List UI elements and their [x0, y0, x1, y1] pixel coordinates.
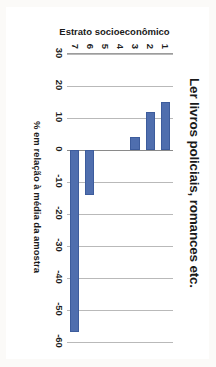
bar-slot — [70, 54, 79, 342]
plot-area — [67, 53, 173, 341]
bar-slot — [115, 54, 124, 342]
value-tick-label: -10 — [54, 166, 65, 196]
value-tick-label: 10 — [54, 102, 65, 132]
bar — [161, 102, 170, 150]
bar-slot — [100, 54, 109, 342]
value-tick-label: -50 — [54, 294, 65, 324]
value-tick-label: 0 — [54, 134, 65, 164]
bar-slot — [85, 54, 94, 342]
value-axis-title: % em relação à média da amostra — [32, 53, 43, 341]
value-tick-label: -60 — [54, 326, 65, 356]
bar — [85, 150, 94, 195]
bar-chart: Ler livros policiais, romances etc. 3020… — [6, 7, 209, 359]
bar — [130, 137, 139, 150]
rotated-chart-stage: Ler livros policiais, romances etc. 3020… — [6, 7, 209, 359]
bar-slot — [130, 54, 139, 342]
bar — [70, 150, 79, 332]
value-tick-label: -40 — [54, 262, 65, 292]
chart-title: Ler livros policiais, romances etc. — [187, 7, 202, 359]
scanned-page: Ler livros policiais, romances etc. 3020… — [0, 0, 216, 367]
bar-series — [67, 54, 173, 342]
value-tick-label: 20 — [54, 70, 65, 100]
value-tick-label: -20 — [54, 198, 65, 228]
gridline — [67, 342, 173, 343]
value-tick-label: -30 — [54, 230, 65, 260]
bar — [146, 112, 155, 150]
bar-slot — [161, 54, 170, 342]
category-axis-title: Estrato socioeconômico — [40, 26, 190, 37]
bar-slot — [146, 54, 155, 342]
value-tick-label: 30 — [54, 38, 65, 68]
